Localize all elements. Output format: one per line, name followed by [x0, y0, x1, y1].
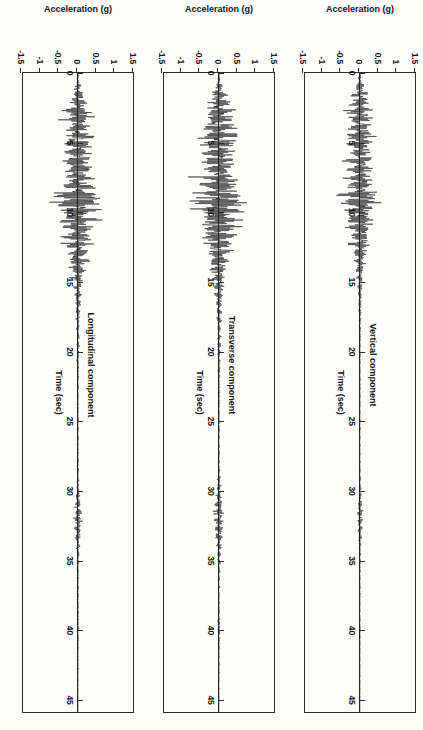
acceleration-trace-vertical [305, 73, 415, 712]
x-tick [360, 73, 365, 74]
x-tick-label: 5 [347, 140, 357, 145]
plot-area-vertical: Acceleration (g) Time (sec) 051015202530… [304, 72, 416, 713]
y-tick-label: 1.5 [269, 53, 279, 64]
y-tick [321, 68, 322, 73]
y-tick-label: 1.5 [128, 53, 138, 64]
panel-vertical: Vertical component Acceleration (g) Time… [282, 0, 423, 730]
acceleration-trace-transverse [164, 73, 274, 712]
x-tick-label: 10 [347, 208, 357, 217]
x-tick [360, 561, 365, 562]
y-tick [273, 68, 274, 73]
y-axis-label-transverse: Acceleration (g) [185, 4, 253, 14]
x-tick-label: 25 [206, 417, 216, 426]
x-tick [219, 282, 224, 283]
y-tick [57, 68, 58, 73]
x-tick-label: 25 [347, 417, 357, 426]
y-tick-label: 1 [109, 59, 119, 64]
x-tick-label: 25 [65, 417, 75, 426]
x-tick [78, 282, 83, 283]
x-tick-label: 5 [65, 140, 75, 145]
panel-slot-longitudinal: Longitudinal component Acceleration (g) … [0, 0, 141, 730]
panel-slot-transverse: Transverse component Acceleration (g) Ti… [141, 0, 282, 730]
y-tick [198, 68, 199, 73]
y-tick-label: 0 [213, 59, 223, 64]
x-tick [78, 421, 83, 422]
x-tick [78, 352, 83, 353]
x-tick [360, 352, 365, 353]
x-tick [219, 421, 224, 422]
y-tick-label: 0.5 [232, 53, 242, 64]
x-tick [219, 491, 224, 492]
x-tick-label: 35 [347, 556, 357, 565]
x-tick [219, 143, 224, 144]
y-tick [302, 68, 303, 73]
y-tick [20, 68, 21, 73]
x-axis-label-vertical: Time (sec) [336, 370, 346, 414]
y-tick-label: 0 [354, 59, 364, 64]
x-tick [360, 212, 365, 213]
y-tick [95, 68, 96, 73]
x-tick-label: 40 [65, 626, 75, 635]
y-tick-label: 1.5 [410, 53, 420, 64]
panel-slot-vertical: Vertical component Acceleration (g) Time… [282, 0, 423, 730]
x-tick-label: 45 [347, 696, 357, 705]
x-tick [360, 491, 365, 492]
x-tick [360, 282, 365, 283]
y-tick-label: 0.5 [91, 53, 101, 64]
x-tick [78, 700, 83, 701]
x-tick-label: 35 [206, 556, 216, 565]
y-tick [236, 68, 237, 73]
x-tick [360, 630, 365, 631]
plot-area-longitudinal: Acceleration (g) Time (sec) 051015202530… [22, 72, 134, 713]
y-tick-label: 0 [72, 59, 82, 64]
x-tick-label: 0 [347, 71, 357, 76]
acceleration-trace-longitudinal [23, 73, 133, 712]
y-tick [358, 68, 359, 73]
y-tick-label: 1 [391, 59, 401, 64]
y-tick [395, 68, 396, 73]
y-tick [180, 68, 181, 73]
y-tick [339, 68, 340, 73]
y-axis-label-vertical: Acceleration (g) [326, 4, 394, 14]
x-tick [78, 212, 83, 213]
x-axis-label-transverse: Time (sec) [195, 370, 205, 414]
seismogram-figure: Longitudinal component Acceleration (g) … [0, 0, 423, 730]
y-tick [76, 68, 77, 73]
x-tick-label: 15 [65, 277, 75, 286]
x-tick [219, 73, 224, 74]
x-tick [360, 700, 365, 701]
x-tick-label: 20 [65, 347, 75, 356]
panel-longitudinal: Longitudinal component Acceleration (g) … [0, 0, 141, 730]
plot-area-transverse: Acceleration (g) Time (sec) 051015202530… [163, 72, 275, 713]
y-tick-label: 1 [250, 59, 260, 64]
x-tick [219, 561, 224, 562]
y-tick-label: -1.5 [16, 50, 26, 64]
x-tick [219, 352, 224, 353]
y-tick-label: -0.5 [53, 50, 63, 64]
y-tick [217, 68, 218, 73]
y-tick-label: -1 [317, 57, 327, 64]
x-tick-label: 5 [206, 140, 216, 145]
x-tick-label: 10 [206, 208, 216, 217]
x-tick-label: 40 [347, 626, 357, 635]
x-tick-label: 40 [206, 626, 216, 635]
y-tick [161, 68, 162, 73]
y-tick-label: -1.5 [157, 50, 167, 64]
x-tick [78, 630, 83, 631]
y-tick [254, 68, 255, 73]
y-tick-label: -1 [35, 57, 45, 64]
x-tick [219, 700, 224, 701]
x-tick-label: 30 [347, 487, 357, 496]
y-tick [113, 68, 114, 73]
x-tick-label: 45 [65, 696, 75, 705]
x-tick-label: 45 [206, 696, 216, 705]
x-tick-label: 15 [347, 277, 357, 286]
y-tick-label: -1.5 [298, 50, 308, 64]
x-tick-label: 15 [206, 277, 216, 286]
x-tick-label: 0 [65, 71, 75, 76]
x-tick-label: 0 [206, 71, 216, 76]
x-tick [360, 143, 365, 144]
x-tick [360, 421, 365, 422]
x-tick [78, 73, 83, 74]
y-tick-label: -0.5 [335, 50, 345, 64]
